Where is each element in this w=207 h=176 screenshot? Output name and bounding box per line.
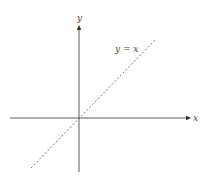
line-label: y = x	[114, 44, 138, 54]
x-axis-label: x	[193, 113, 198, 123]
y-axis-label: y	[76, 13, 83, 23]
coordinate-plane: x y y = x	[0, 0, 207, 176]
identity-line	[31, 40, 155, 168]
